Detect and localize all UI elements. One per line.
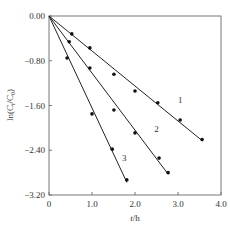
x-tick-label: 4.0 (215, 199, 227, 209)
y-tick-label: −0.80 (24, 56, 45, 66)
data-point (200, 138, 204, 142)
plot-frame (49, 16, 221, 195)
series-label-1: 1 (178, 95, 183, 105)
data-point (112, 108, 116, 112)
data-point (178, 118, 182, 122)
data-point (70, 32, 74, 36)
data-point (157, 156, 161, 160)
data-points (65, 32, 204, 182)
data-point (133, 131, 137, 135)
chart: 01.02.03.04.00.00−0.80−1.60−2.40−3.20 12… (0, 0, 230, 230)
x-tick-label: 0 (47, 199, 52, 209)
data-point (133, 89, 137, 93)
series-label-3: 3 (122, 153, 127, 163)
data-point (125, 178, 129, 182)
y-tick-label: 0.00 (29, 11, 45, 21)
data-point (88, 46, 92, 50)
data-point (166, 171, 170, 175)
data-point (88, 66, 92, 70)
data-point (110, 147, 114, 151)
x-axis-label: t/h (130, 213, 140, 223)
data-point (65, 56, 69, 60)
x-tick-label: 1.0 (86, 199, 98, 209)
data-point (112, 72, 116, 76)
y-tick-label: −3.20 (24, 190, 45, 200)
x-tick-label: 3.0 (172, 199, 184, 209)
y-tick-label: −2.40 (24, 145, 45, 155)
x-tick-label: 2.0 (129, 199, 141, 209)
y-axis-label: ln(Ct/C0) (5, 89, 16, 121)
data-point (67, 40, 71, 44)
data-point (156, 101, 160, 105)
series-label-2: 2 (154, 124, 159, 134)
y-tick-label: −1.60 (24, 101, 45, 111)
data-point (90, 112, 94, 116)
